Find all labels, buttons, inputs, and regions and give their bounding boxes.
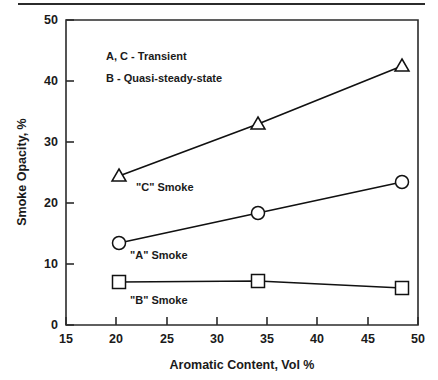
note-transient: A, C - Transient <box>106 50 187 62</box>
series-b-marker-square <box>396 282 409 295</box>
x-tick-label-50: 50 <box>411 332 425 346</box>
series-b-marker-square <box>252 275 265 288</box>
x-tick-label-40: 40 <box>310 332 324 346</box>
x-tick-label-20: 20 <box>109 332 123 346</box>
series-a-marker-circle <box>252 207 265 220</box>
note-quasi-steady-state: B - Quasi-steady-state <box>106 72 222 84</box>
y-tick-label-40: 40 <box>44 74 58 88</box>
x-axis-tick-labels: 15 20 25 30 35 40 45 50 <box>59 332 425 346</box>
series-c-marker-triangle <box>251 117 265 129</box>
series-c-label: "C" Smoke <box>136 181 194 193</box>
y-tick-label-30: 30 <box>44 135 58 149</box>
series-c-marker-triangle <box>395 59 409 71</box>
x-tick-label-25: 25 <box>160 332 174 346</box>
x-tick-label-35: 35 <box>260 332 274 346</box>
series-a-marker-circle <box>396 176 409 189</box>
series-a-label: "A" Smoke <box>130 249 188 261</box>
x-tick-label-15: 15 <box>59 332 73 346</box>
series-b-label: "B" Smoke <box>130 294 188 306</box>
y-axis-ticks <box>66 20 74 325</box>
x-axis-ticks <box>66 317 418 325</box>
x-axis-title: Aromatic Content, Vol % <box>170 358 315 372</box>
y-tick-label-50: 50 <box>44 13 58 27</box>
series-b-smoke: "B" Smoke <box>113 275 409 307</box>
y-axis-tick-labels: 0 10 20 30 40 50 <box>44 13 58 332</box>
x-tick-label-30: 30 <box>210 332 224 346</box>
series-b-marker-square <box>113 276 126 289</box>
y-tick-label-20: 20 <box>44 196 58 210</box>
series-a-marker-circle <box>113 237 126 250</box>
y-axis-title: Smoke Opacity, % <box>15 118 29 225</box>
y-tick-label-0: 0 <box>51 318 58 332</box>
x-tick-label-45: 45 <box>361 332 375 346</box>
y-tick-label-10: 10 <box>44 257 58 271</box>
smoke-opacity-line-chart: 0 10 20 30 40 50 15 20 25 30 35 40 45 50… <box>0 0 438 380</box>
chart-figure: 0 10 20 30 40 50 15 20 25 30 35 40 45 50… <box>0 0 438 380</box>
